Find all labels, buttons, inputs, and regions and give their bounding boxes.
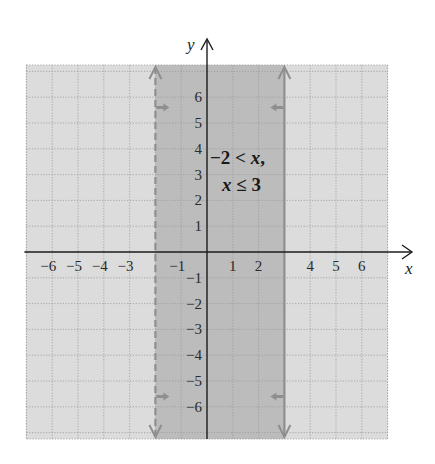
y-tick-label: 5 xyxy=(195,115,203,131)
annotation-line-2: x ≤ 3 xyxy=(221,174,261,195)
inequality-graph: −6−5−4−3−112456 −6−5−4−3−2−1123456 x y −… xyxy=(0,0,435,464)
y-tick-label: 2 xyxy=(195,192,203,208)
y-tick-label: −3 xyxy=(186,321,202,337)
y-tick-label: 1 xyxy=(195,218,203,234)
y-tick-label: −6 xyxy=(186,399,202,415)
y-tick-label: 3 xyxy=(195,167,203,183)
x-tick-label: −6 xyxy=(40,258,56,274)
y-tick-label: −5 xyxy=(186,373,202,389)
annotation-line-2-variable: x xyxy=(221,174,232,195)
y-tick-label: 6 xyxy=(195,89,203,105)
y-tick-label: −2 xyxy=(186,296,202,312)
y-tick-label: −1 xyxy=(186,270,202,286)
x-tick-label: −1 xyxy=(169,258,185,274)
x-tick-label: 1 xyxy=(229,258,237,274)
x-tick-label: −3 xyxy=(118,258,134,274)
y-tick-label: −4 xyxy=(186,347,202,363)
x-tick-label: −4 xyxy=(92,258,108,274)
x-axis-label: x xyxy=(404,259,413,278)
x-tick-label: 6 xyxy=(358,258,366,274)
x-tick-label: 5 xyxy=(332,258,340,274)
x-tick-label: 4 xyxy=(306,258,314,274)
y-axis-label: y xyxy=(185,35,195,54)
annotation-line-1-variable: x xyxy=(250,147,261,168)
annotation-line-1: −2 < x, xyxy=(210,147,265,168)
x-tick-label: 2 xyxy=(255,258,263,274)
x-tick-label: −5 xyxy=(66,258,82,274)
annotation-line-1-comma: , xyxy=(260,147,265,168)
y-tick-label: 4 xyxy=(195,141,203,157)
annotation-line-1-number: −2 < xyxy=(210,147,251,168)
annotation-line-2-rest: ≤ 3 xyxy=(232,174,261,195)
